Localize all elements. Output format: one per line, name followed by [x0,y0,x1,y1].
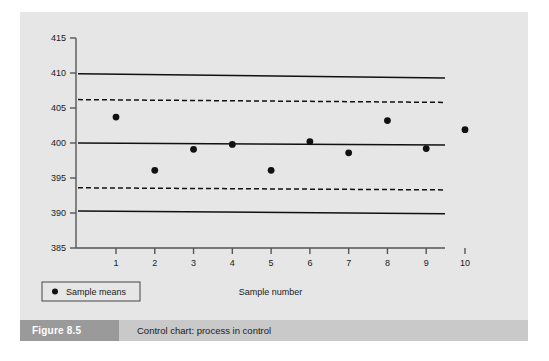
upper-control-limit [78,74,445,78]
x-axis-tick-label: 5 [269,258,274,268]
y-axis-tick-label: 410 [51,68,66,78]
legend-marker-icon [52,289,58,295]
x-axis-tick-label: 1 [113,258,118,268]
data-point [384,117,391,124]
x-axis-tick-label: 10 [460,258,470,268]
lower-control-limit [78,211,445,214]
y-axis-tick-label: 400 [51,138,66,148]
figure-caption-text: Control chart: process in control [137,325,271,336]
control-chart-plot: 385390395400405410415 12345678910 Sample… [20,12,528,320]
data-point [268,167,275,174]
x-axis-tick-label: 2 [152,258,157,268]
centre-line [78,143,445,145]
x-axis-tick-label: 4 [230,258,235,268]
x-axis-tick-label: 7 [346,258,351,268]
y-axis-tick-label: 415 [51,33,66,43]
reference-lines-group [78,74,445,214]
y-axis-tick-label: 385 [51,243,66,253]
data-point [151,167,158,174]
x-axis-tick-label: 8 [385,258,390,268]
upper-warning-limit [78,100,445,103]
x-axis-title: Sample number [239,287,303,297]
data-point [462,126,469,133]
figure-caption-bar: Figure 8.5 Control chart: process in con… [20,320,528,341]
y-axis-tick-label: 405 [51,103,66,113]
figure-number-label: Figure 8.5 [32,325,81,336]
x-axis-tick-label: 3 [191,258,196,268]
data-point [190,146,197,153]
data-point [113,114,120,121]
figure-caption-box: Control chart: process in control [119,320,528,341]
y-axis-tick-label: 390 [51,208,66,218]
legend-entry-label: Sample means [66,287,127,297]
data-point [423,145,430,152]
data-point [345,149,352,156]
figure-container: 385390395400405410415 12345678910 Sample… [0,0,549,361]
figure-number-box: Figure 8.5 [20,320,119,341]
y-axis-ticks-group: 385390395400405410415 [51,33,76,253]
y-axis-tick-label: 395 [51,173,66,183]
data-point [306,138,313,145]
data-point [229,141,236,148]
x-axis-tick-label: 6 [307,258,312,268]
lower-warning-limit [78,188,445,190]
x-axis-ticks-group: 12345678910 [113,248,470,268]
chart-panel: 385390395400405410415 12345678910 Sample… [20,12,528,320]
x-axis-tick-label: 9 [424,258,429,268]
axis-labels-group: Sample number [239,287,303,297]
chart-legend: Sample means [42,282,140,301]
